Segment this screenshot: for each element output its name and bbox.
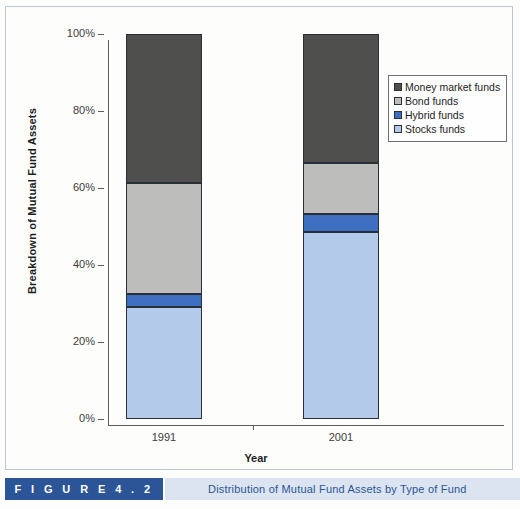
y-axis-tick-label: 100% <box>35 27 95 39</box>
x-axis-line <box>108 425 504 426</box>
y-axis-line <box>108 40 109 426</box>
bar-segment-hybrid-funds-1991[interactable] <box>126 294 202 307</box>
x-axis-tick <box>253 425 254 430</box>
figure-container: 100%80%60%40%20%0% 19912001 Breakdown of… <box>0 0 520 509</box>
y-axis-title: Breakdown of Mutual Fund Assets <box>26 101 38 301</box>
figure-caption-bar: F I G U R E 4 . 2 Distribution of Mutual… <box>5 478 520 500</box>
bar-segment-bond-funds-1991[interactable] <box>126 183 202 294</box>
x-axis-tick-label: 1991 <box>124 431 204 443</box>
legend-swatch-icon <box>394 97 402 105</box>
legend-item-label: Hybrid funds <box>405 109 464 121</box>
y-axis-tick <box>98 342 104 343</box>
legend-item[interactable]: Money market funds <box>394 80 501 94</box>
figure-caption-text: Distribution of Mutual Fund Assets by Ty… <box>165 483 467 495</box>
figure-number-band: F I G U R E 4 . 2 <box>5 478 163 500</box>
y-axis-tick <box>98 188 104 189</box>
bar-segment-bond-funds-2001[interactable] <box>303 163 379 214</box>
figure-title-band: Distribution of Mutual Fund Assets by Ty… <box>163 478 520 500</box>
y-axis-tick <box>98 265 104 266</box>
legend-swatch-icon <box>394 111 402 119</box>
chart-frame: 100%80%60%40%20%0% 19912001 Breakdown of… <box>5 6 513 470</box>
figure-number-label: F I G U R E 4 . 2 <box>14 483 153 495</box>
y-axis-tick-label: 20% <box>35 335 95 347</box>
y-axis-tick <box>98 419 104 420</box>
bar-segment-money-market-funds-1991[interactable] <box>126 34 202 183</box>
bar-segment-hybrid-funds-2001[interactable] <box>303 214 379 232</box>
y-axis-tick-label: 0% <box>35 412 95 424</box>
chart-legend: Money market fundsBond fundsHybrid funds… <box>388 75 507 142</box>
legend-swatch-icon <box>394 83 402 91</box>
bar-segment-money-market-funds-2001[interactable] <box>303 34 379 163</box>
stacked-bar-2001[interactable] <box>303 34 379 419</box>
legend-item[interactable]: Stocks funds <box>394 122 501 136</box>
x-axis-tick-label: 2001 <box>301 431 381 443</box>
legend-swatch-icon <box>394 125 402 133</box>
legend-item[interactable]: Bond funds <box>394 94 501 108</box>
y-axis-tick <box>98 34 104 35</box>
bar-segment-stocks-funds-1991[interactable] <box>126 307 202 419</box>
x-axis-title: Year <box>186 452 326 464</box>
legend-item-label: Bond funds <box>405 95 458 107</box>
stacked-bar-1991[interactable] <box>126 34 202 419</box>
legend-item-label: Stocks funds <box>405 123 465 135</box>
y-axis-tick-label: 60% <box>35 181 95 193</box>
legend-item[interactable]: Hybrid funds <box>394 108 501 122</box>
legend-item-label: Money market funds <box>405 81 500 93</box>
y-axis-tick-label: 80% <box>35 104 95 116</box>
y-axis-tick-label: 40% <box>35 258 95 270</box>
y-axis-tick <box>98 111 104 112</box>
bar-segment-stocks-funds-2001[interactable] <box>303 232 379 419</box>
